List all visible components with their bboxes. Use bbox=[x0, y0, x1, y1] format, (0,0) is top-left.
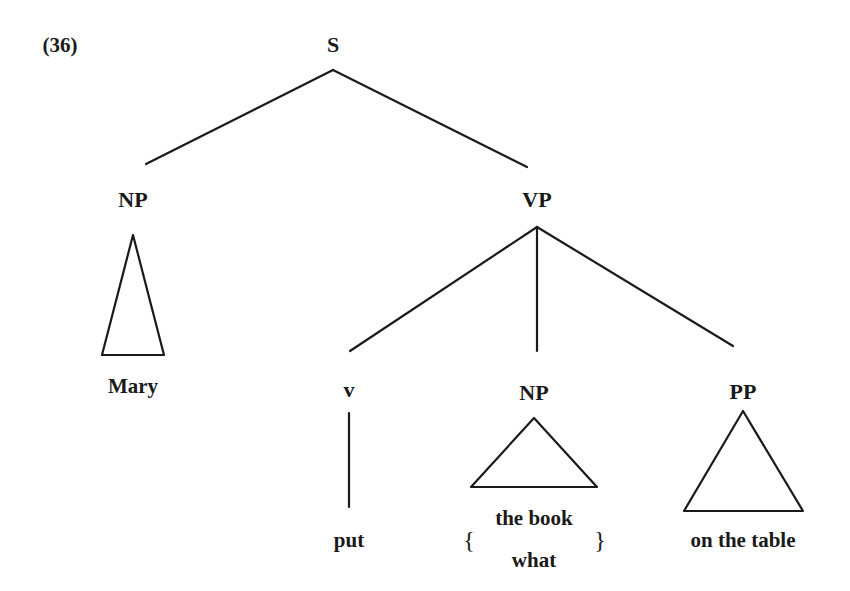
close-brace: } bbox=[594, 527, 606, 554]
node-s: S bbox=[327, 32, 339, 58]
edge-vp-v bbox=[350, 227, 537, 351]
edge-s-np bbox=[146, 70, 333, 164]
terminal-what: what bbox=[512, 548, 556, 573]
node-v: v bbox=[344, 377, 355, 403]
node-vp: VP bbox=[522, 187, 551, 213]
tree-edges bbox=[0, 0, 850, 591]
node-np-subject: NP bbox=[118, 187, 147, 213]
terminal-put: put bbox=[334, 528, 364, 553]
roof-np-object bbox=[471, 418, 597, 487]
edge-vp-pp bbox=[537, 227, 733, 346]
edge-s-vp bbox=[333, 70, 527, 167]
terminal-mary: Mary bbox=[108, 374, 158, 399]
terminal-the-book: the book bbox=[495, 506, 573, 531]
terminal-on-the-table: on the table bbox=[691, 528, 796, 553]
node-pp: PP bbox=[730, 379, 757, 405]
roof-pp bbox=[684, 411, 803, 511]
example-number: (36) bbox=[43, 33, 78, 58]
roof-np-subject bbox=[102, 235, 164, 355]
node-np-object: NP bbox=[519, 380, 548, 406]
open-brace: { bbox=[463, 527, 475, 554]
